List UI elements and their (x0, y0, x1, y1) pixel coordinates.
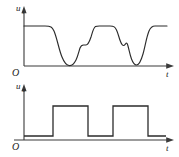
y-axis-input (21, 6, 26, 66)
panel-output-waveform: u o t O (12, 81, 174, 153)
origin-label-input: O (12, 67, 19, 78)
waveform-svg: u i t O u o t (0, 0, 179, 157)
y-axis-sublabel-output: o (23, 87, 26, 93)
y-axis-label-input: u (16, 3, 21, 13)
x-axis-arrow-input (166, 63, 174, 68)
input-waveform-curve (24, 26, 167, 66)
waveform-figure: u i t O u o t (0, 0, 179, 157)
output-waveform-curve (24, 106, 166, 136)
x-axis-arrow-output (166, 137, 174, 142)
panel-input-waveform: u i t O (12, 3, 174, 79)
x-axis-label-input: t (166, 69, 169, 79)
origin-label-output: O (12, 141, 19, 152)
x-axis-input (24, 63, 174, 68)
x-axis-output (14, 137, 174, 142)
y-axis-label-output: u (16, 81, 21, 91)
x-axis-label-output: t (166, 143, 169, 153)
